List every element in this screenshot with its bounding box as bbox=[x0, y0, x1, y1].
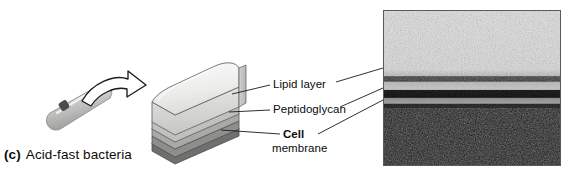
label-peptidoglycan: Peptidoglycan bbox=[273, 103, 346, 115]
electron-micrograph-cell-envelope bbox=[383, 10, 561, 166]
leader-lines-right bbox=[318, 68, 383, 134]
label-lipid-layer: Lipid layer bbox=[273, 78, 326, 90]
acid-fast-bacteria-figure: (c)Acid-fast bacteria Lipid layer Peptid… bbox=[0, 0, 573, 177]
micrograph-bands bbox=[384, 11, 560, 165]
cell-wall-block-diagram bbox=[152, 63, 246, 164]
label-cell: Cell bbox=[283, 128, 304, 140]
label-membrane: membrane bbox=[272, 142, 327, 154]
caption-letter: (c) bbox=[4, 147, 21, 162]
curved-magnification-arrow bbox=[82, 71, 146, 106]
caption-text: Acid-fast bacteria bbox=[26, 147, 132, 162]
figure-caption: (c)Acid-fast bacteria bbox=[4, 147, 132, 162]
